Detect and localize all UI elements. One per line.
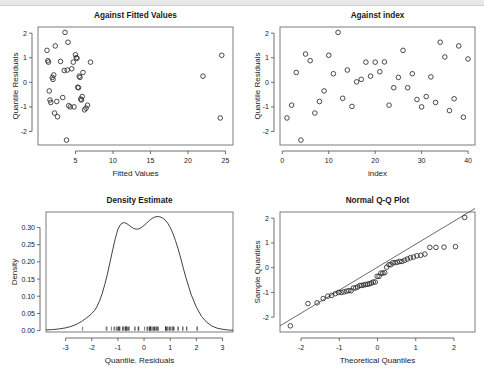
- y-tick-label: 0: [23, 79, 27, 86]
- x-tick-label: -1: [115, 344, 121, 351]
- y-axis-label: Sample Quantiles: [253, 240, 262, 303]
- density-estimate-chart: Density Estimate-3-2-10123Quantile. Resi…: [0, 190, 242, 380]
- qq-reference-line: [280, 208, 475, 325]
- x-tick-label: 25: [222, 157, 230, 164]
- y-tick-label: -1: [263, 103, 269, 110]
- y-tick-label: 0.05: [21, 310, 35, 317]
- x-tick-label: -1: [336, 344, 342, 351]
- panel-against-index: Against index010203040index-2-1012Quanti…: [242, 5, 484, 190]
- data-point: [47, 89, 52, 94]
- x-tick-label: 1: [414, 344, 418, 351]
- y-tick-label: 0: [265, 79, 269, 86]
- data-point: [322, 89, 327, 94]
- data-point: [294, 70, 299, 75]
- y-axis-label: Density: [10, 259, 19, 286]
- data-point: [331, 71, 336, 76]
- y-tick-label: -1: [263, 289, 269, 296]
- data-point: [453, 244, 458, 249]
- y-tick-label: 2: [23, 30, 27, 37]
- panel-title: Against Fitted Values: [94, 11, 177, 20]
- x-tick-label: -3: [62, 344, 68, 351]
- data-point: [45, 48, 50, 53]
- x-axis-label: Theoretical Quantiles: [340, 356, 416, 365]
- data-point: [419, 105, 424, 110]
- data-point: [71, 60, 76, 65]
- data-point: [64, 138, 69, 143]
- diagnostic-plot-grid: Against Fitted Values510152025Fitted Val…: [0, 5, 484, 380]
- panel-title: Against index: [351, 11, 405, 20]
- data-point: [424, 94, 429, 99]
- data-point: [66, 40, 71, 45]
- panel-density-estimate: Density Estimate-3-2-10123Quantile. Resi…: [0, 190, 242, 380]
- data-point: [350, 104, 355, 109]
- data-point: [447, 108, 452, 113]
- normal-qq-plot-chart: Normal Q-Q Plot-2-1012Theoretical Quanti…: [242, 190, 484, 380]
- data-point: [60, 95, 65, 100]
- data-point: [434, 245, 439, 250]
- plot-frame: [46, 212, 233, 332]
- x-tick-label: 0: [376, 344, 380, 351]
- data-point: [306, 301, 311, 306]
- data-point: [396, 75, 401, 80]
- x-tick-label: -2: [298, 344, 304, 351]
- data-point: [466, 57, 471, 62]
- y-tick-label: 0: [265, 264, 269, 271]
- y-tick-label: 0.10: [21, 293, 35, 300]
- data-point: [364, 60, 369, 65]
- data-point: [88, 60, 93, 65]
- data-point: [63, 30, 68, 35]
- x-tick-label: 40: [464, 157, 472, 164]
- data-point: [438, 40, 443, 45]
- data-point: [289, 103, 294, 108]
- x-tick-label: 10: [109, 157, 117, 164]
- data-point: [423, 252, 428, 257]
- y-tick-label: 0.15: [21, 276, 35, 283]
- y-tick-label: 1: [23, 54, 27, 61]
- x-tick-label: 0: [280, 157, 284, 164]
- data-point: [65, 68, 70, 73]
- x-tick-label: 2: [452, 344, 456, 351]
- density-curve: [46, 216, 233, 330]
- data-point: [354, 80, 359, 85]
- x-axis-label: Quantile. Residuals: [105, 356, 174, 365]
- y-tick-label: 2: [265, 215, 269, 222]
- data-point: [303, 52, 308, 57]
- x-tick-label: 20: [371, 157, 379, 164]
- data-point: [433, 100, 438, 105]
- y-tick-label: -2: [263, 314, 269, 321]
- data-point: [219, 53, 224, 58]
- data-point: [443, 55, 448, 60]
- data-point: [378, 69, 383, 74]
- against-fitted-values-chart: Against Fitted Values510152025Fitted Val…: [0, 5, 242, 190]
- data-point: [462, 215, 467, 220]
- x-tick-label: 10: [325, 157, 333, 164]
- data-point: [387, 103, 392, 108]
- y-tick-label: 0.30: [21, 224, 35, 231]
- data-point: [58, 59, 63, 64]
- data-point: [368, 74, 373, 79]
- data-point: [54, 99, 59, 104]
- y-tick-label: 1: [265, 54, 269, 61]
- data-point: [81, 70, 86, 75]
- plot-frame: [280, 27, 475, 145]
- plot-frame: [280, 212, 475, 332]
- data-point: [391, 85, 396, 90]
- data-point: [452, 96, 457, 101]
- data-point: [359, 77, 364, 82]
- data-point: [46, 60, 51, 65]
- data-point: [456, 44, 461, 49]
- data-point: [345, 68, 350, 73]
- y-tick-label: -2: [21, 128, 27, 135]
- y-tick-label: 0.20: [21, 258, 35, 265]
- data-point: [288, 324, 293, 329]
- y-tick-label: -2: [263, 128, 269, 135]
- x-axis-label: index: [368, 169, 387, 178]
- data-point: [218, 116, 223, 121]
- data-point: [401, 48, 406, 53]
- panel-normal-qq-plot: Normal Q-Q Plot-2-1012Theoretical Quanti…: [242, 190, 484, 380]
- data-point: [373, 60, 378, 65]
- data-point: [428, 245, 433, 250]
- y-axis-label: Quantile Residuals: [11, 52, 20, 119]
- data-point: [313, 111, 318, 116]
- x-tick-label: 5: [74, 157, 78, 164]
